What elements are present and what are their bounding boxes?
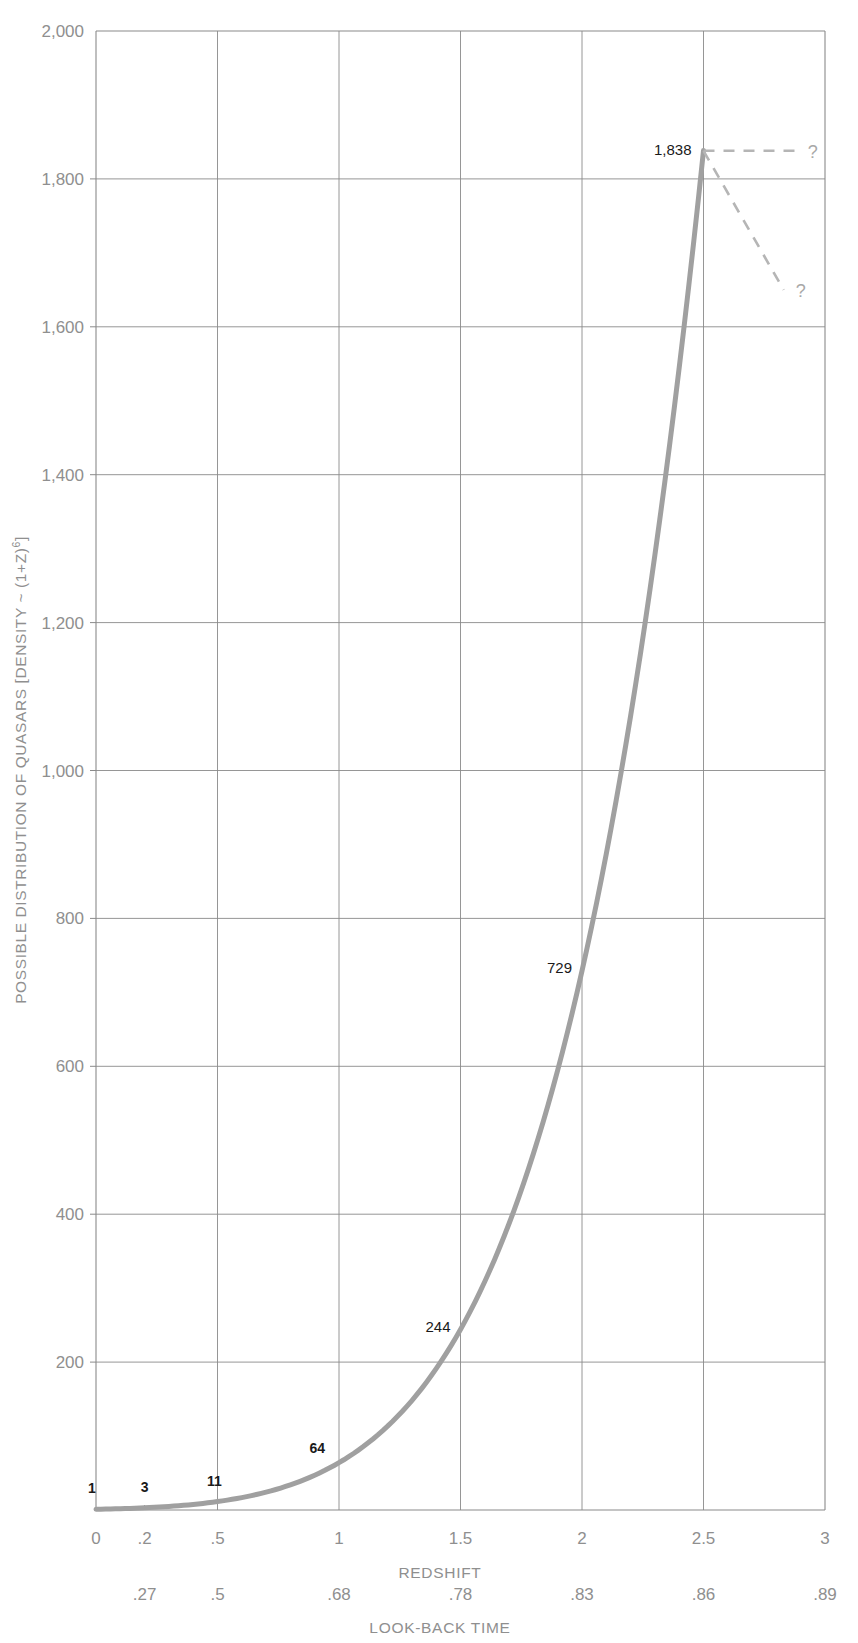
- y-tick-label: 200: [56, 1353, 84, 1372]
- data-point-label: 1: [88, 1480, 96, 1496]
- lookback-axis-title: LOOK-BACK TIME: [369, 1619, 510, 1636]
- quasar-distribution-chart: 2004006008001,0001,2001,4001,6001,8002,0…: [0, 0, 858, 1643]
- x-axis-ticks: 0.2.511.522.53: [91, 1505, 829, 1548]
- y-tick-label: 1,600: [41, 318, 84, 337]
- x-tick-label: 2: [577, 1529, 586, 1548]
- data-point-label: 1,838: [654, 141, 692, 158]
- projection-question-label: ?: [796, 281, 806, 301]
- y-tick-label: 600: [56, 1057, 84, 1076]
- y-axis-ticks: 2004006008001,0001,2001,4001,6001,8002,0…: [41, 22, 96, 1372]
- x-tick-label: 1: [334, 1529, 343, 1548]
- lookback-tick-label: .83: [570, 1585, 594, 1604]
- y-tick-label: 1,800: [41, 170, 84, 189]
- data-point-label: 729: [547, 959, 572, 976]
- lookback-tick-label: .68: [327, 1585, 351, 1604]
- x-tick-label: 2.5: [692, 1529, 716, 1548]
- x-tick-label: .2: [138, 1529, 152, 1548]
- data-point-label: 244: [425, 1318, 450, 1335]
- lookback-tick-label: .86: [692, 1585, 716, 1604]
- projection-lines: ??: [704, 142, 818, 301]
- y-axis-title-main: POSSIBLE DISTRIBUTION OF QUASARS [DENSIT…: [12, 548, 29, 1004]
- x-tick-label: 0: [91, 1529, 100, 1548]
- x-axis-title: REDSHIFT: [398, 1564, 481, 1581]
- data-point-label: 64: [309, 1440, 325, 1456]
- data-point-label: 11: [207, 1473, 222, 1489]
- y-tick-label: 1,400: [41, 466, 84, 485]
- y-tick-label: 400: [56, 1205, 84, 1224]
- y-tick-label: 800: [56, 909, 84, 928]
- lookback-tick-label: .78: [449, 1585, 473, 1604]
- projection-question-label: ?: [808, 142, 818, 162]
- declining-projection: [704, 151, 784, 290]
- density-curve: [96, 151, 704, 1510]
- svg-text:POSSIBLE DISTRIBUTION OF QUASA: POSSIBLE DISTRIBUTION OF QUASARS [DENSIT…: [10, 536, 29, 1004]
- y-tick-label: 1,200: [41, 614, 84, 633]
- chart-svg: 2004006008001,0001,2001,4001,6001,8002,0…: [0, 0, 858, 1643]
- density-curve-path: [96, 151, 704, 1510]
- x-tick-label: 3: [820, 1529, 829, 1548]
- data-point-labels: 1311642447291,838: [88, 141, 691, 1496]
- x-tick-label: 1.5: [449, 1529, 473, 1548]
- lookback-tick-label: .5: [210, 1585, 224, 1604]
- lookback-time-ticks: .27.5.68.78.83.86.89: [133, 1585, 837, 1604]
- y-tick-label: 2,000: [41, 22, 84, 41]
- y-axis-title: POSSIBLE DISTRIBUTION OF QUASARS [DENSIT…: [10, 536, 29, 1004]
- y-tick-label: 1,000: [41, 762, 84, 781]
- lookback-tick-label: .27: [133, 1585, 157, 1604]
- x-tick-label: .5: [210, 1529, 224, 1548]
- y-axis-title-tail: ]: [12, 536, 29, 541]
- lookback-tick-label: .89: [813, 1585, 837, 1604]
- data-point-label: 3: [141, 1479, 149, 1495]
